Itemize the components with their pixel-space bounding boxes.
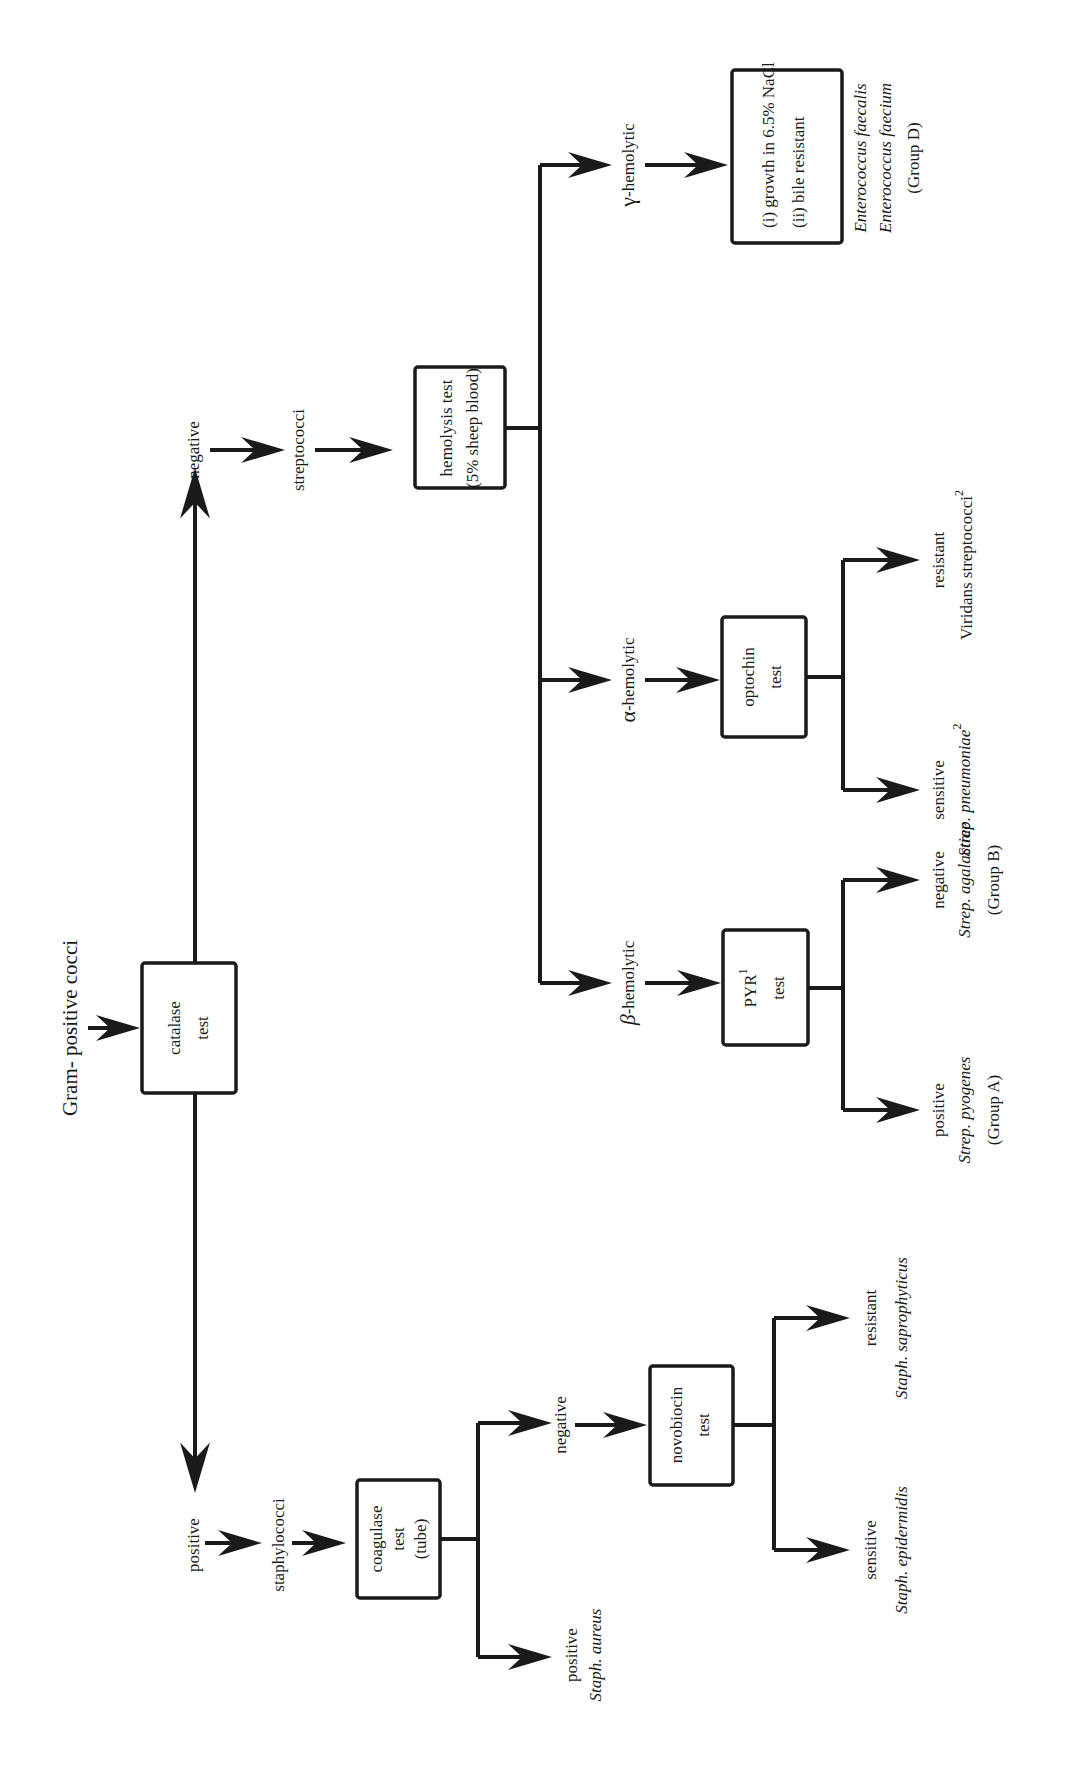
label-streptococci: streptococci — [289, 409, 308, 491]
label-beta-hemolytic: β-hemolytic — [615, 940, 640, 1026]
optochin-box-line-2: test — [766, 665, 785, 689]
label-catalase-negative: negative — [184, 421, 203, 479]
label-enterococcus-faecalis: Enterococcus faecalis — [851, 83, 870, 233]
catalase-test-box — [142, 963, 236, 1093]
label-staph-saprophyticus: Staph. saprophyticus — [892, 1257, 911, 1399]
novobiocin-box-line-2: test — [694, 1413, 713, 1437]
optochin-test-box — [722, 617, 806, 737]
pyr-test-box — [723, 930, 808, 1045]
pyr-box-line-2: test — [769, 976, 788, 1000]
coagulase-box-line-2: test — [389, 1527, 408, 1551]
label-optochin-sensitive: sensitive — [929, 760, 948, 820]
label-staph-epidermidis: Staph. epidermidis — [892, 1486, 911, 1614]
label-strep-pyogenes: Strep. pyogenes — [955, 1056, 974, 1163]
gamma-box-line-1: (i) growth in 6.5% NaCl — [759, 62, 778, 228]
label-pyr-negative: negative — [929, 851, 948, 909]
label-coagulase-negative: negative — [551, 1396, 570, 1454]
label-gamma-hemolytic: γ-hemolytic — [615, 123, 640, 208]
label-staphylococci: staphylococci — [269, 1498, 288, 1592]
arrowheads — [96, 152, 920, 1670]
label-group-a: (Group A) — [984, 1075, 1003, 1145]
label-alpha-hemolytic: α-hemolytic — [615, 637, 640, 723]
novobiocin-test-box — [650, 1366, 733, 1485]
label-novobiocin-resistant: resistant — [861, 1289, 880, 1346]
label-viridans-streptococci: Viridans streptococci2 — [952, 490, 976, 640]
label-optochin-resistant: resistant — [929, 531, 948, 588]
catalase-box-line-2: test — [193, 1016, 212, 1040]
flowchart-canvas: Gram- positive coccicatalasetestpositive… — [0, 0, 1069, 1783]
start-label-gram-positive-cocci: Gram- positive cocci — [58, 940, 82, 1116]
coagulase-box-line-3: (tube) — [411, 1519, 430, 1560]
gamma-criteria-box — [732, 70, 842, 243]
hemolysis-box-line-1: hemolysis test — [437, 379, 456, 476]
label-group-b: (Group B) — [984, 845, 1003, 915]
label-staph-aureus: Staph. aureus — [586, 1608, 605, 1701]
label-group-d: (Group D) — [904, 122, 923, 193]
hemolysis-box-line-2: (5% sheep blood) — [463, 368, 482, 488]
label-pyr-positive: positive — [929, 1083, 948, 1137]
label-novobiocin-sensitive: sensitive — [861, 1520, 880, 1580]
label-coagulase-positive: positive — [562, 1628, 581, 1682]
coagulase-box-line-1: coagulase — [367, 1505, 386, 1572]
catalase-box-line-1: catalase — [165, 1001, 184, 1055]
optochin-box-line-1: optochin — [739, 647, 758, 707]
gamma-box-line-2: (ii) bile resistant — [789, 116, 808, 228]
hemolysis-test-box — [415, 367, 505, 488]
label-strep-agalactiae: Strep. agalactiae — [955, 822, 974, 938]
label-enterococcus-faecium: Enterococcus faecium — [876, 83, 895, 234]
flowchart-diagram: Gram- positive coccicatalasetestpositive… — [0, 0, 1069, 1783]
test-boxes — [142, 70, 842, 1598]
novobiocin-box-line-1: novobiocin — [667, 1386, 686, 1463]
label-catalase-positive: positive — [184, 1518, 203, 1572]
